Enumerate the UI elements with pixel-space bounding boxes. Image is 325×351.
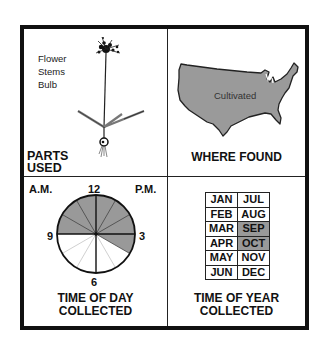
clock-hour-9: 9 <box>47 230 53 242</box>
clock-hour-6: 6 <box>91 276 97 288</box>
month-oct-highlighted: OCT <box>238 236 270 251</box>
month-jun: JUN <box>206 265 238 280</box>
month-apr: APR <box>206 236 238 251</box>
where-found-caption: WHERE FOUND <box>168 151 305 164</box>
calendar-row: FEB AUG <box>206 207 270 222</box>
time-of-day-caption: TIME OF DAY COLLECTED <box>24 292 167 318</box>
month-nov: NOV <box>238 251 270 266</box>
info-card-frame: Flower Stems Bulb PARTS <box>20 25 309 330</box>
pm-label: P.M. <box>135 183 156 195</box>
month-mar: MAR <box>206 222 238 237</box>
month-sep-highlighted: SEP <box>238 222 270 237</box>
map-label-cultivated: Cultivated <box>214 90 256 101</box>
month-may: MAY <box>206 251 238 266</box>
time-of-year-caption: TIME OF YEAR COLLECTED <box>168 292 305 318</box>
calendar-row: JAN JUL <box>206 193 270 208</box>
vertical-divider <box>167 29 168 326</box>
month-aug: AUG <box>238 207 270 222</box>
clock-hour-3: 3 <box>139 230 145 242</box>
part-stems: Stems <box>38 65 67 78</box>
month-jan: JAN <box>206 193 238 208</box>
horizontal-divider <box>24 176 305 177</box>
am-label: A.M. <box>29 183 52 195</box>
month-jul: JUL <box>238 193 270 208</box>
month-feb: FEB <box>206 207 238 222</box>
part-flower: Flower <box>38 52 67 65</box>
calendar-row: MAR SEP <box>206 222 270 237</box>
parts-list: Flower Stems Bulb <box>38 52 67 91</box>
calendar-row: MAY NOV <box>206 251 270 266</box>
calendar-row: JUN DEC <box>206 265 270 280</box>
part-bulb: Bulb <box>38 78 67 91</box>
month-dec: DEC <box>238 265 270 280</box>
plant-illustration-icon <box>74 35 154 157</box>
month-calendar-grid: JAN JUL FEB AUG MAR SEP APR OCT MAY NOV … <box>205 192 270 280</box>
parts-used-caption: PARTS USED <box>27 151 68 174</box>
calendar-row: APR OCT <box>206 236 270 251</box>
clock-diagram-icon <box>55 193 137 275</box>
